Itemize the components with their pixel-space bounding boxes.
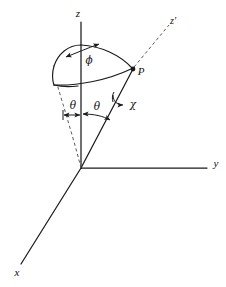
theta-right-label: θ: [94, 100, 101, 112]
sector-arc-bottom: [54, 69, 131, 85]
cone-generator-dashed: [57, 84, 81, 168]
z-prime-axis-label: z': [169, 15, 177, 26]
point-p-marker: [131, 67, 136, 72]
spherical-coordinates-diagram: z z' y x P ϕ θ θ χ: [0, 0, 226, 287]
theta-right-arc: [83, 114, 110, 120]
phi-angle-label: ϕ: [85, 54, 92, 66]
z-axis-label: z: [75, 7, 81, 19]
y-axis-label: y: [213, 157, 219, 169]
point-p-label: P: [137, 65, 145, 77]
sector-arc-left-outer: [53, 66, 55, 85]
sector-arc-upper-left: [54, 45, 81, 66]
figure-canvas: z z' y x P ϕ θ θ χ: [0, 0, 226, 287]
z-prime-axis-dashed: [134, 25, 169, 67]
x-axis-label: x: [14, 266, 20, 278]
theta-left-label: θ: [70, 99, 77, 111]
phi-angle-arc: [66, 44, 99, 57]
x-axis-line: [21, 168, 81, 264]
chi-angle-label: χ: [129, 98, 137, 110]
